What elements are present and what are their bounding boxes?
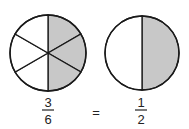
right-numerator: 1 xyxy=(137,95,144,110)
circle-halves xyxy=(105,16,179,90)
unshaded-slice xyxy=(105,16,142,90)
left-denominator: 6 xyxy=(44,112,51,127)
circle-sixths xyxy=(10,15,86,91)
shaded-slice xyxy=(142,16,179,90)
fraction-diagram: 3 6 = 1 2 xyxy=(0,0,189,129)
left-numerator: 3 xyxy=(44,95,51,110)
equals-sign: = xyxy=(92,105,100,120)
right-denominator: 2 xyxy=(137,112,144,127)
